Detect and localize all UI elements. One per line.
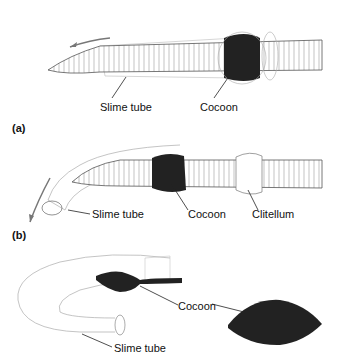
label-slime-tube-c: Slime tube [114,342,166,354]
panel-a-illustration [48,32,322,98]
label-slime-tube-b: Slime tube [92,208,144,220]
panel-c-illustration [18,255,322,347]
label-cocoon-a: Cocoon [200,101,238,113]
panel-label-b: (b) [12,229,26,241]
panel-label-a: (a) [12,122,25,134]
label-cocoon-c: Cocoon [178,300,216,312]
label-clitellum-b: Clitellum [252,208,294,220]
label-cocoon-b: Cocoon [188,208,226,220]
earthworm-cocoon-diagram [0,0,340,364]
label-slime-tube-a: Slime tube [100,101,152,113]
